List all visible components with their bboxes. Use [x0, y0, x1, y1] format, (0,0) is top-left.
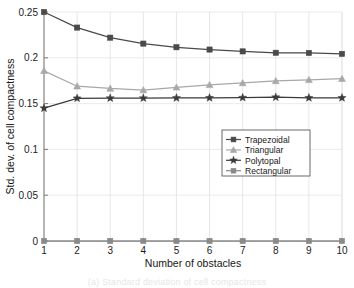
y-tick-label: 0.25	[19, 7, 39, 18]
data-point-marker	[41, 67, 48, 73]
y-tick-label: 0.1	[24, 144, 38, 155]
x-tick-label: 6	[207, 245, 213, 256]
x-tick-label: 9	[306, 245, 312, 256]
x-tick-label: 10	[336, 245, 348, 256]
axes	[44, 12, 342, 241]
y-tick-label: 0.05	[19, 190, 39, 201]
series-polytopal	[40, 93, 346, 112]
chart-canvas: 00.050.10.150.20.2512345678910Number of …	[0, 0, 354, 288]
data-point-marker	[108, 35, 113, 40]
data-point-marker	[75, 25, 80, 30]
legend[interactable]: TrapezoidalTriangularPolytopalRectangula…	[222, 130, 310, 176]
y-tick-label: 0	[32, 236, 38, 247]
figure-caption: (a) Standard deviation of cell compactne…	[0, 276, 354, 288]
data-point-marker	[231, 168, 236, 173]
legend-label: Rectangular	[245, 166, 291, 176]
data-point-marker	[231, 137, 236, 142]
figure-container: 00.050.10.150.20.2512345678910Number of …	[0, 0, 354, 288]
data-point-marker	[306, 50, 311, 55]
data-point-marker	[339, 238, 344, 243]
x-tick-label: 2	[74, 245, 80, 256]
y-axis-title: Std. dev. of cell compactness	[4, 59, 16, 195]
series-rectangular	[41, 238, 344, 243]
data-point-marker	[240, 49, 245, 54]
x-tick-label: 5	[174, 245, 180, 256]
data-point-marker	[75, 238, 80, 243]
legend-label: Polytopal	[245, 156, 280, 166]
x-tick-label: 3	[107, 245, 113, 256]
data-point-marker	[207, 238, 212, 243]
y-tick-label: 0.2	[24, 52, 38, 63]
legend-label: Trapezoidal	[245, 135, 290, 145]
x-tick-label: 1	[41, 245, 47, 256]
data-point-marker	[174, 238, 179, 243]
data-point-marker	[240, 238, 245, 243]
x-tick-label: 8	[273, 245, 279, 256]
x-tick-label: 7	[240, 245, 246, 256]
data-point-marker	[207, 47, 212, 52]
data-point-marker	[273, 50, 278, 55]
data-point-marker	[141, 41, 146, 46]
series-trapezoidal	[41, 9, 344, 56]
x-tick-label: 4	[141, 245, 147, 256]
grid-lines	[44, 12, 342, 241]
data-point-marker	[141, 238, 146, 243]
series-line	[44, 71, 342, 90]
x-axis-title: Number of obstacles	[145, 257, 241, 269]
data-point-marker	[41, 238, 46, 243]
data-point-marker	[41, 9, 46, 14]
series-line	[44, 12, 342, 54]
legend-label: Triangular	[245, 145, 284, 155]
data-point-marker	[273, 238, 278, 243]
series-line	[44, 97, 342, 108]
series-triangular	[41, 67, 346, 92]
data-point-marker	[108, 238, 113, 243]
data-point-marker	[174, 45, 179, 50]
y-tick-label: 0.15	[19, 98, 39, 109]
series-group	[40, 9, 346, 243]
data-point-marker	[306, 238, 311, 243]
data-point-marker	[339, 51, 344, 56]
